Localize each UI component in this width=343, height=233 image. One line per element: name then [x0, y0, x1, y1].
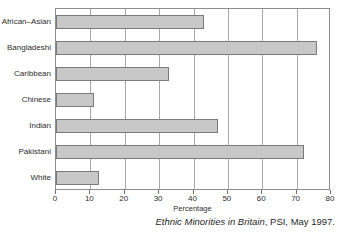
bar-row: [56, 15, 331, 29]
bar: [56, 15, 204, 29]
bar-series: [56, 9, 329, 189]
bar: [56, 41, 317, 55]
bar-row: [56, 41, 331, 55]
source-detail: , PSI, May 1997.: [265, 216, 335, 227]
bar-row: [56, 67, 331, 81]
category-label: Pakistani: [0, 147, 51, 156]
x-tick-label: 50: [215, 194, 239, 203]
x-tick-label: 0: [43, 194, 67, 203]
category-label: Chinese: [0, 95, 51, 104]
bar: [56, 119, 218, 133]
category-label: African–Asian: [0, 17, 51, 26]
category-label: Bangladeshi: [0, 43, 51, 52]
x-tick-label: 20: [112, 194, 136, 203]
bar-row: [56, 93, 331, 107]
bar-row: [56, 145, 331, 159]
bar-chart-figure: African–AsianBangladeshiCaribbeanChinese…: [0, 0, 343, 233]
x-tick-label: 70: [284, 194, 308, 203]
source-caption: Ethnic Minorities in Britain, PSI, May 1…: [0, 216, 335, 227]
x-tick-label: 10: [77, 194, 101, 203]
category-label: Indian: [0, 121, 51, 130]
x-tick-label: 30: [146, 194, 170, 203]
bar: [56, 171, 99, 185]
x-axis-title: Percentage: [55, 204, 330, 213]
bar: [56, 93, 94, 107]
plot-area: [55, 8, 330, 190]
source-title: Ethnic Minorities in Britain: [155, 216, 264, 227]
category-label: White: [0, 173, 51, 182]
x-tick-label: 60: [249, 194, 273, 203]
bar: [56, 67, 169, 81]
bar-row: [56, 119, 331, 133]
x-tick-label: 40: [181, 194, 205, 203]
bar-row: [56, 171, 331, 185]
x-tick-label: 80: [318, 194, 342, 203]
bar: [56, 145, 304, 159]
category-label: Caribbean: [0, 69, 51, 78]
